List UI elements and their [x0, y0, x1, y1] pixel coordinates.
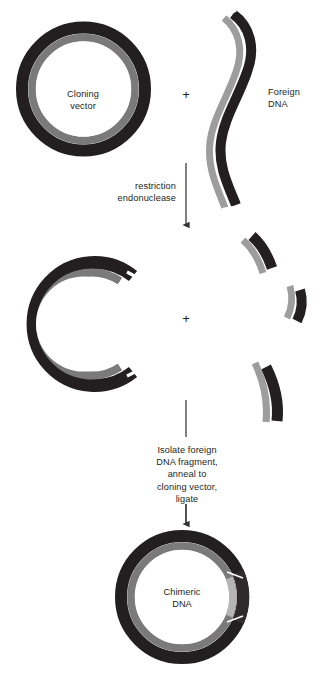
- chimeric-insert-outer: [238, 572, 243, 622]
- foreign-dna-label: Foreign DNA: [268, 86, 320, 110]
- isolate-anneal-ligate-label: Isolate foreign DNA fragment, anneal to …: [114, 444, 260, 505]
- foreign-dna-molecule: [209, 10, 251, 210]
- plus-sign-top: +: [179, 88, 193, 101]
- cloning-diagram: Cloning vector Foreign DNA restriction e…: [0, 0, 321, 684]
- plus-sign-middle: +: [179, 312, 193, 325]
- chimeric-dna-label: Chimeric DNA: [133, 586, 231, 610]
- foreign-fragment-2: [287, 286, 302, 321]
- fragment-2-dark-strand: [297, 290, 302, 321]
- foreign-fragment-3: [255, 363, 278, 422]
- bottom-caption-fragment: [10, 672, 140, 682]
- cut-vector: [33, 263, 141, 386]
- cut-vector-lumen: [36, 277, 131, 372]
- cloning-vector-label: Cloning vector: [34, 88, 132, 112]
- foreign-fragment-1: [243, 236, 272, 273]
- restriction-endonuclease-label: restriction endonuclease: [70, 180, 176, 204]
- fragment-2-gray-strand: [287, 286, 292, 318]
